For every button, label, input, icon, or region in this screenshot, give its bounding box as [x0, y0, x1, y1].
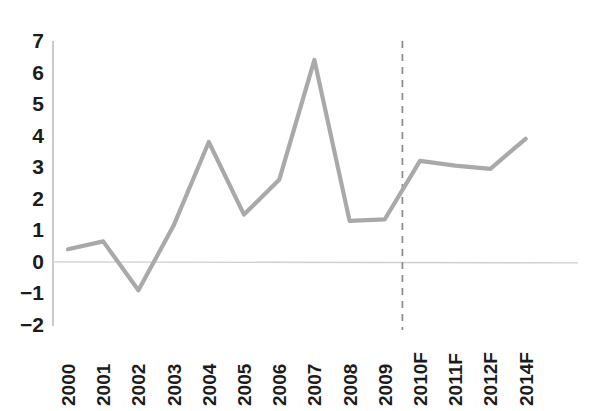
x-tick-2010F: 2010F: [411, 352, 430, 406]
y-tick-1: 1: [10, 219, 44, 240]
x-tick-2001: 2001: [94, 364, 113, 406]
x-tick-2012F: 2012F: [481, 352, 500, 406]
x-tick-2014F: 2014F: [517, 352, 536, 406]
x-tick-2006: 2006: [270, 364, 289, 406]
y-tick-0: 0: [10, 251, 44, 272]
y-tick-7: 7: [10, 30, 44, 51]
y-tick-2: 2: [10, 188, 44, 209]
y-tick-neg2: −2: [10, 314, 44, 335]
y-tick-3: 3: [10, 156, 44, 177]
line-chart: 76543210−1−2 200020012002200320042005200…: [0, 0, 592, 411]
x-tick-2007: 2007: [305, 364, 324, 406]
zero-baseline: [53, 262, 578, 263]
y-tick-4: 4: [10, 125, 44, 146]
x-tick-2011F: 2011F: [446, 353, 465, 406]
data-series-line: [68, 60, 526, 290]
y-tick-6: 6: [10, 62, 44, 83]
x-tick-2003: 2003: [165, 364, 184, 406]
x-tick-2004: 2004: [200, 364, 219, 406]
y-tick-neg1: −1: [10, 282, 44, 303]
x-tick-2005: 2005: [235, 364, 254, 406]
x-tick-2008: 2008: [341, 364, 360, 406]
x-tick-2000: 2000: [59, 364, 78, 406]
x-tick-2009: 2009: [376, 364, 395, 406]
y-tick-5: 5: [10, 93, 44, 114]
x-tick-2002: 2002: [129, 364, 148, 406]
chart-plot-area: [0, 0, 592, 411]
